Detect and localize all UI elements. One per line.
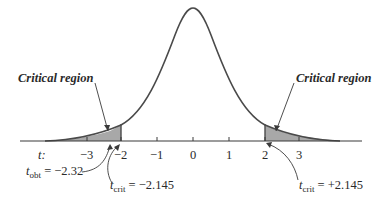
tick-label-2: 2 — [262, 149, 268, 162]
critical-region-left-label: Critical region — [18, 72, 93, 85]
tick-label-neg2: −2 — [114, 149, 127, 162]
tick-label-3: 3 — [296, 149, 302, 162]
critical-region-left-shade — [45, 125, 121, 141]
tick-label-neg1: −1 — [150, 149, 163, 162]
t-critical-left-label: tcrit = −2.145 — [110, 179, 174, 194]
t-obtained-label: tobt = −2.32 — [26, 165, 83, 180]
tick-label-0: 0 — [190, 149, 196, 162]
tick-label-neg3: −3 — [80, 149, 93, 162]
tick-label-1: 1 — [226, 149, 232, 162]
t-critical-right-label: tcrit = +2.145 — [299, 179, 363, 194]
axis-variable-label: t: — [38, 149, 46, 162]
critical-region-right-label: Critical region — [296, 72, 371, 85]
